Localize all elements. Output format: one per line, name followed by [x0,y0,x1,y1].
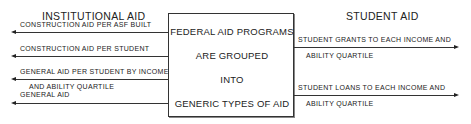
left-arrow-line [14,79,168,80]
arrow-right-icon [454,93,459,97]
right-arrow-line [294,47,454,48]
arrow-left-icon [11,30,16,34]
left-arrow-line [14,32,168,33]
center-box-line-4: GENERIC TYPES OF AID [169,98,295,109]
left-output-label: CONSTRUCTION AID PER ASF BUILT [20,21,151,28]
arrow-left-icon [11,101,16,105]
left-arrow-line [14,56,168,57]
left-output-label: GENERAL AID PER STUDENT BY INCOME [20,68,169,75]
left-arrow-line [14,103,168,104]
center-box-line-1: FEDERAL AID PROGRAMS [169,26,295,37]
arrow-left-icon [11,54,16,58]
right-header: STUDENT AID [346,10,419,22]
right-arrow-line [294,95,454,96]
center-box-line-2: ARE GROUPED [169,50,295,61]
right-output-label-cont: ABILITY QUARTILE [306,52,374,59]
right-output-label: STUDENT GRANTS TO EACH INCOME AND [298,36,451,43]
right-output-label-cont: ABILITY QUARTILE [306,100,374,107]
center-box-line-3: INTO [169,74,295,85]
center-box: FEDERAL AID PROGRAMS ARE GROUPED INTO GE… [168,13,294,117]
left-output-label: CONSTRUCTION AID PER STUDENT [20,45,149,52]
left-output-label: GENERAL AID [20,91,70,98]
arrow-right-icon [454,45,459,49]
arrow-left-icon [11,77,16,81]
right-output-label: STUDENT LOANS TO EACH INCOME AND [298,84,445,91]
left-output-label-cont: AND ABILITY QUARTILE [29,83,114,90]
